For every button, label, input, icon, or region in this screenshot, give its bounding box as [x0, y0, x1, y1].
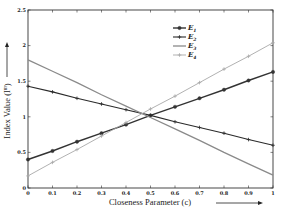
circle-marker-icon: [198, 97, 201, 100]
plus-marker-icon: [198, 126, 202, 130]
x-tick-label: 0: [26, 190, 30, 196]
plot-border: [28, 10, 273, 188]
series-line: [28, 60, 273, 175]
series-e2: [26, 84, 275, 147]
x-tick-label: 0.8: [220, 190, 229, 196]
circle-marker-icon: [75, 140, 78, 143]
x-tick-label: 0.1: [48, 190, 57, 196]
x-axis-title: Closeness Parameter (c): [109, 197, 263, 207]
plus-marker-icon: [178, 53, 182, 57]
x-axis-label: Closeness Parameter (c): [109, 197, 191, 207]
plus-marker-icon: [26, 84, 30, 88]
plus-marker-icon: [75, 96, 79, 100]
x-tick-label: 1: [271, 190, 274, 196]
series-e4: [26, 41, 275, 178]
y-tick-label: 1.5: [17, 78, 26, 84]
x-axis-arrow-icon: [258, 201, 263, 205]
plus-marker-icon: [222, 131, 226, 135]
plus-marker-icon: [100, 134, 104, 138]
x-tick-label: 0.2: [73, 190, 82, 196]
y-axis-arrow-icon: [5, 42, 9, 47]
svg-text:Index Value (Im): Index Value (Im): [2, 83, 12, 138]
x-tick-label: 0.6: [171, 190, 180, 196]
series-layer: [26, 41, 275, 178]
plus-marker-icon: [178, 35, 182, 39]
y-tick-label: 1: [23, 114, 26, 120]
x-tick-label: 0.4: [122, 190, 131, 196]
plus-marker-icon: [149, 107, 153, 111]
circle-marker-icon: [247, 79, 250, 82]
plus-marker-icon: [198, 81, 202, 85]
plus-marker-icon: [26, 174, 30, 178]
plus-marker-icon: [75, 148, 79, 152]
x-tick-label: 0.9: [244, 190, 253, 196]
circle-marker-icon: [26, 158, 29, 161]
plus-marker-icon: [124, 108, 128, 112]
y-axis-ticks: 00.511.522.5: [17, 7, 273, 191]
plus-marker-icon: [51, 161, 55, 165]
circle-marker-icon: [271, 70, 274, 73]
plus-marker-icon: [173, 120, 177, 124]
plot-frame: [28, 10, 273, 188]
legend-label: E4: [187, 50, 196, 60]
y-axis-label-close: ): [2, 83, 12, 86]
plus-marker-icon: [222, 67, 226, 71]
legend: E1E2E3E4: [173, 23, 196, 60]
plus-marker-icon: [271, 41, 275, 45]
series-e3: [28, 60, 273, 175]
plus-marker-icon: [271, 143, 275, 147]
circle-marker-icon: [173, 105, 176, 108]
x-tick-label: 0.7: [195, 190, 204, 196]
x-axis-ticks: 00.10.20.30.40.50.60.70.80.91: [26, 10, 274, 196]
y-tick-label: 2.5: [17, 7, 26, 13]
circle-marker-icon: [222, 88, 225, 91]
legend-item-e4: E4: [173, 50, 196, 60]
circle-marker-icon: [178, 26, 181, 29]
plus-marker-icon: [247, 138, 251, 142]
plus-marker-icon: [100, 102, 104, 106]
plus-marker-icon: [247, 54, 251, 58]
circle-marker-icon: [51, 149, 54, 152]
y-tick-label: 0.5: [17, 149, 26, 155]
line-chart: 00.10.20.30.40.50.60.70.80.91 00.511.522…: [0, 0, 282, 211]
y-tick-label: 0: [23, 185, 27, 191]
x-tick-label: 0.3: [97, 190, 106, 196]
x-tick-label: 0.5: [146, 190, 155, 196]
plus-marker-icon: [51, 90, 55, 94]
y-tick-label: 2: [23, 42, 27, 48]
plus-marker-icon: [173, 94, 177, 98]
y-axis-label: Index Value (I: [2, 90, 12, 139]
y-axis-title: Index Value (Im): [2, 42, 12, 139]
